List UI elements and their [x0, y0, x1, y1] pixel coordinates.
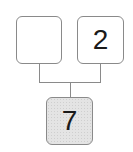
- part-left-box[interactable]: [16, 16, 62, 64]
- whole-box: 7: [46, 97, 93, 145]
- connector-left-vertical: [39, 64, 40, 83]
- connector-center-vertical: [70, 82, 71, 97]
- part-right-box: 2: [77, 16, 124, 64]
- part-right-value: 2: [93, 26, 109, 54]
- whole-value: 7: [62, 107, 78, 135]
- connector-right-vertical: [100, 64, 101, 83]
